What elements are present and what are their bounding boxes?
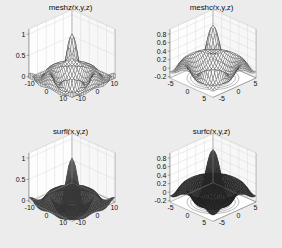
plot-panel-surfc: surfc(x,y,z)0.80.60.40.20-0.2-505-505 <box>141 124 282 248</box>
x-tick-label: 10 <box>110 204 118 211</box>
y-tick-label: 5 <box>202 95 206 102</box>
plot-surface-meshc: 0.80.60.40.20-0.2-505-505 <box>141 0 282 124</box>
x-tick-label: 5 <box>253 80 257 87</box>
y-tick-label: 0 <box>185 88 189 95</box>
y-tick-label: 0 <box>185 212 189 219</box>
z-tick-label: 0.8 <box>157 31 167 38</box>
z-tick-label: -0.2 <box>154 73 166 80</box>
x-tick-label: 0 <box>96 212 100 219</box>
z-tick-label: 0.2 <box>157 56 167 63</box>
z-tick-label: 0.6 <box>157 163 167 170</box>
z-tick-label: 1 <box>21 155 25 162</box>
z-tick-label: 0.2 <box>157 180 167 187</box>
y-tick-label: -10 <box>25 80 35 87</box>
y-tick-label: -5 <box>168 80 174 87</box>
y-tick-label: 10 <box>59 219 67 226</box>
x-tick-label: 0 <box>237 212 241 219</box>
z-tick-label: 1 <box>21 31 25 38</box>
z-tick-label: -0.2 <box>154 197 166 204</box>
figure-canvas: meshz(x,y,z)10.50-10010-10010meshc(x,y,z… <box>0 0 282 248</box>
x-tick-label: 0 <box>237 88 241 95</box>
z-tick-label: 0.8 <box>157 155 167 162</box>
x-tick-label: 5 <box>253 204 257 211</box>
y-tick-label: -10 <box>25 204 35 211</box>
y-tick-label: 10 <box>59 95 67 102</box>
plot-surface-meshz: 10.50-10010-10010 <box>0 0 141 124</box>
x-tick-label: -5 <box>219 219 225 226</box>
plot-panel-meshc: meshc(x,y,z)0.80.60.40.20-0.2-505-505 <box>141 0 282 124</box>
z-tick-label: 0 <box>162 65 166 72</box>
z-tick-label: 0.6 <box>157 39 167 46</box>
z-tick-label: 0 <box>21 197 25 204</box>
x-tick-label: -10 <box>76 219 86 226</box>
x-tick-label: -5 <box>219 95 225 102</box>
plot-panel-meshz: meshz(x,y,z)10.50-10010-10010 <box>0 0 141 124</box>
y-tick-label: 0 <box>44 212 48 219</box>
y-tick-label: 5 <box>202 219 206 226</box>
y-tick-label: 0 <box>44 88 48 95</box>
z-tick-label: 0 <box>21 73 25 80</box>
plot-surface-surfc: 0.80.60.40.20-0.2-505-505 <box>141 124 282 248</box>
x-tick-label: 10 <box>110 80 118 87</box>
z-tick-label: 0.4 <box>157 172 167 179</box>
z-tick-label: 0.5 <box>16 52 26 59</box>
x-tick-label: -10 <box>76 95 86 102</box>
z-tick-label: 0.4 <box>157 48 167 55</box>
x-tick-label: 0 <box>96 88 100 95</box>
z-tick-label: 0.5 <box>16 176 26 183</box>
plot-surface-surfl: 10.50-10010-10010 <box>0 124 141 248</box>
y-tick-label: -5 <box>168 204 174 211</box>
plot-panel-surfl: surfl(x,y,z)10.50-10010-10010 <box>0 124 141 248</box>
z-tick-label: 0 <box>162 189 166 196</box>
